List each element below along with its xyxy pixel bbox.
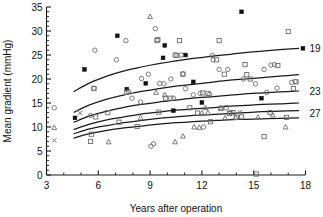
data-point-open-square bbox=[222, 72, 226, 76]
x-tick-label: 12 bbox=[196, 180, 208, 191]
data-point-open-square bbox=[94, 115, 98, 119]
data-point-open-triangle bbox=[148, 14, 153, 19]
data-point-open-circle bbox=[138, 100, 142, 104]
y-tick-label: 35 bbox=[31, 2, 43, 13]
data-point-open-circle bbox=[130, 96, 134, 100]
y-tick-label: 5 bbox=[37, 146, 43, 157]
data-point-open-triangle bbox=[138, 115, 143, 120]
data-point-filled-square bbox=[172, 109, 176, 113]
data-point-open-square bbox=[88, 139, 92, 143]
y-tick-label: 10 bbox=[31, 122, 43, 133]
data-point-open-circle bbox=[191, 93, 195, 97]
y-tick-label: 30 bbox=[31, 26, 43, 37]
data-point-open-square bbox=[243, 63, 247, 67]
data-point-open-circle bbox=[124, 38, 128, 42]
data-point-filled-square bbox=[200, 101, 204, 105]
y-axis-title: Mean gradient (mmHg) bbox=[2, 40, 13, 143]
data-point-open-circle bbox=[253, 82, 257, 86]
curve-label-27: 27 bbox=[310, 108, 322, 119]
data-point-open-circle bbox=[171, 96, 175, 100]
data-point-open-triangle bbox=[106, 139, 111, 144]
data-point-open-circle bbox=[162, 82, 166, 86]
y-tick-label: 15 bbox=[31, 98, 43, 109]
data-point-open-square bbox=[240, 115, 244, 119]
data-point-filled-square bbox=[191, 80, 195, 84]
scatter-plot: 05101520253035369121518Years after opera… bbox=[0, 0, 323, 217]
data-point-open-circle bbox=[226, 67, 230, 71]
data-point-cross bbox=[238, 110, 242, 114]
x-tick-label: 18 bbox=[300, 180, 312, 191]
data-point-filled-square bbox=[144, 81, 148, 85]
data-point-cross bbox=[52, 138, 56, 142]
data-point-open-triangle bbox=[270, 112, 275, 117]
data-point-open-triangle bbox=[197, 125, 202, 130]
data-point-open-circle bbox=[179, 53, 183, 57]
data-point-filled-square bbox=[161, 56, 165, 60]
x-axis-title: Years after operation bbox=[130, 203, 222, 214]
data-point-open-triangle bbox=[52, 125, 57, 130]
data-point-open-square bbox=[286, 29, 290, 33]
data-point-open-circle bbox=[93, 48, 97, 52]
curve-label-19: 19 bbox=[310, 43, 322, 54]
data-point-open-circle bbox=[169, 77, 173, 81]
data-point-filled-square bbox=[240, 10, 244, 14]
data-point-open-circle bbox=[114, 58, 118, 62]
data-point-open-circle bbox=[153, 26, 157, 30]
data-point-filled-square bbox=[184, 53, 188, 57]
data-point-open-circle bbox=[217, 67, 221, 71]
data-point-filled-square bbox=[301, 46, 305, 50]
fit-curve-29 bbox=[74, 118, 298, 138]
data-point-open-circle bbox=[157, 81, 161, 85]
curve-label-23: 23 bbox=[310, 86, 322, 97]
data-point-open-circle bbox=[146, 72, 150, 76]
data-point-open-triangle bbox=[203, 105, 208, 110]
x-tick-label: 15 bbox=[248, 180, 260, 191]
chart-figure: 05101520253035369121518Years after opera… bbox=[0, 0, 323, 217]
data-point-filled-square bbox=[83, 68, 87, 72]
data-point-open-triangle bbox=[223, 115, 228, 120]
data-point-open-circle bbox=[139, 76, 143, 80]
y-tick-label: 20 bbox=[31, 74, 43, 85]
data-point-open-triangle bbox=[181, 134, 186, 139]
data-point-open-triangle bbox=[173, 139, 178, 144]
data-point-open-square bbox=[245, 73, 249, 77]
data-point-filled-square bbox=[163, 44, 167, 48]
x-tick-label: 3 bbox=[44, 180, 50, 191]
data-point-open-triangle bbox=[283, 124, 288, 129]
data-point-open-triangle bbox=[192, 124, 197, 129]
data-point-open-circle bbox=[262, 67, 266, 71]
data-point-open-circle bbox=[201, 125, 205, 129]
data-point-cross bbox=[78, 111, 82, 115]
fit-curve-23 bbox=[74, 91, 298, 122]
y-tick-label: 25 bbox=[31, 50, 43, 61]
data-point-filled-square bbox=[73, 116, 77, 120]
x-tick-label: 6 bbox=[96, 180, 102, 191]
data-point-filled-square bbox=[115, 34, 119, 38]
data-point-open-square bbox=[262, 135, 266, 139]
data-point-open-triangle bbox=[206, 110, 211, 115]
data-point-open-triangle bbox=[154, 90, 159, 95]
data-point-open-square bbox=[217, 39, 221, 43]
x-tick-label: 9 bbox=[147, 180, 153, 191]
data-point-open-circle bbox=[52, 106, 56, 110]
data-point-open-circle bbox=[183, 86, 187, 90]
data-point-open-square bbox=[177, 39, 181, 43]
y-tick-label: 0 bbox=[37, 170, 43, 181]
data-point-open-circle bbox=[275, 86, 279, 90]
data-point-filled-square bbox=[260, 96, 264, 100]
data-point-open-square bbox=[291, 87, 295, 91]
data-point-open-square bbox=[284, 115, 288, 119]
